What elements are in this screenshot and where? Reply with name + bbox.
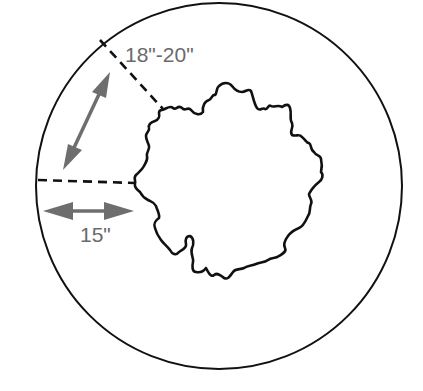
horizontal-dashed-guide <box>38 180 135 183</box>
planting-diagram: 18"-20" 15" <box>0 0 423 391</box>
outer-planting-circle <box>36 3 402 369</box>
diagonal-double-arrow-icon <box>63 72 110 170</box>
diagonal-measurement-label: 18"-20" <box>125 43 194 66</box>
root-ball-outline <box>135 83 323 279</box>
horizontal-measurement-label: 15" <box>80 223 111 246</box>
horizontal-double-arrow-icon <box>43 202 134 220</box>
